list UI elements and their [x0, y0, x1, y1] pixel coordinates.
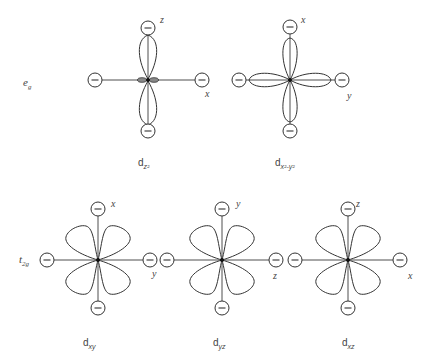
nucleus	[146, 78, 150, 82]
axis-label-vertical: y	[235, 198, 241, 209]
ligand-left	[88, 73, 102, 87]
ligand-top	[283, 20, 297, 34]
orbital-label: dxy	[83, 337, 96, 351]
d-orbital-diagram: eg t2g z x dz² x y dx²-y²	[0, 0, 437, 361]
torus-left	[138, 78, 147, 83]
ligand-right	[269, 253, 283, 267]
ligand-top	[215, 202, 229, 216]
orbital-label: dyz	[213, 337, 226, 351]
ligand-left	[288, 253, 302, 267]
orbital-label: dz²	[138, 157, 150, 170]
ligand-left	[160, 253, 174, 267]
orbital-label: dxz	[342, 337, 355, 350]
ligand-right	[195, 73, 209, 87]
axis-label-horizontal: z	[272, 270, 277, 281]
nucleus	[96, 258, 100, 262]
torus-right	[150, 78, 159, 83]
ligand-right	[393, 253, 407, 267]
ligand-bottom	[141, 124, 155, 138]
axis-label-vertical: z	[355, 198, 360, 209]
axis-label-horizontal: x	[204, 88, 210, 99]
nucleus	[346, 258, 350, 262]
orbital-dx2-y2: x y dx²-y²	[232, 14, 352, 171]
ligand-top	[141, 21, 155, 35]
axis-label-horizontal: x	[407, 270, 413, 281]
ligand-right	[335, 73, 349, 87]
group-label-eg: eg	[23, 76, 32, 91]
ligand-top	[341, 202, 355, 216]
axis-label-vertical: z	[159, 14, 164, 25]
ligand-bottom	[283, 124, 297, 138]
ligand-top	[91, 202, 105, 216]
axis-label-vertical: x	[300, 14, 306, 25]
nucleus	[288, 78, 292, 82]
orbital-dxy: x y dxy	[40, 198, 157, 351]
axis-label-horizontal: y	[346, 90, 352, 101]
nucleus	[220, 258, 224, 262]
ligand-left	[232, 73, 246, 87]
ligand-bottom	[341, 301, 355, 315]
ligand-bottom	[91, 301, 105, 315]
axis-label-horizontal: y	[151, 268, 157, 279]
ligand-bottom	[215, 301, 229, 315]
orbital-dyz: y z dyz	[160, 198, 283, 351]
orbital-label: dx²-y²	[275, 157, 295, 171]
ligand-right	[143, 253, 157, 267]
orbital-dxz: z x dxz	[288, 198, 413, 350]
axis-label-vertical: x	[110, 198, 116, 209]
group-label-t2g: t2g	[19, 253, 30, 268]
ligand-left	[40, 253, 54, 267]
orbital-dz2: z x dz²	[88, 14, 210, 170]
